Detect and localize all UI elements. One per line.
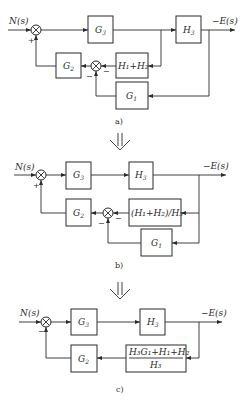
transform-arrow-2 [110, 282, 130, 299]
sign-minus-a2-bottom: − [86, 72, 93, 81]
input-label-c: N(s) [19, 308, 40, 318]
block-feedback-c-denominator: H₃ [149, 360, 162, 370]
caption-a: a) [115, 117, 123, 126]
caption-b: b) [115, 261, 123, 270]
block-feedback-c-numerator: H₃G₁+H₁+H₂ [128, 347, 190, 357]
input-label-a: N(s) [8, 16, 29, 26]
caption-c: c) [116, 385, 124, 394]
transform-arrow-1 [110, 133, 130, 150]
input-label-b: N(s) [14, 162, 35, 172]
sign-minus-c1: − [38, 327, 45, 336]
diagram-b: N(s) + G3 H3 −E(s) (H₁+H₂)/H₃ [14, 161, 229, 270]
summing-junction-c1 [41, 317, 51, 327]
summing-junction-a2 [91, 61, 101, 71]
summing-junction-b2 [103, 208, 113, 218]
sign-plus-b1: + [33, 181, 40, 190]
sign-minus-b2-bottom: − [98, 219, 105, 228]
output-label-b: −E(s) [203, 161, 229, 171]
diagram-c: N(s) − G3 H3 −E(s) H₃G₁+H₁+H₂ H₃ G2 [19, 308, 227, 394]
diagram-a: N(s) + G3 H3 −E(s) H₁+H₂ [8, 16, 238, 126]
output-label-c: −E(s) [201, 308, 227, 318]
block-h12-over-h3-b-label: (H₁+H₂)/H₃ [131, 208, 183, 218]
sign-minus-b2-right: − [115, 214, 122, 223]
summing-junction-b1 [36, 170, 46, 180]
output-label-a: −E(s) [212, 16, 238, 26]
sign-minus-a2-right: − [103, 67, 110, 76]
sign-plus-a1: + [28, 36, 35, 45]
block-diagram: N(s) + G3 H3 −E(s) H₁+H₂ [0, 0, 242, 400]
block-h1-plus-h2-a-label: H₁+H₂ [117, 61, 149, 71]
summing-junction-a1 [31, 25, 41, 35]
